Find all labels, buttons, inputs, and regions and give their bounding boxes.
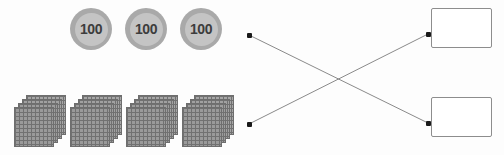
flat-front-face [14,107,54,147]
coin-value-label: 100 [80,22,102,36]
coin-100-3[interactable]: 100 [180,8,222,50]
hundred-flat-2[interactable] [70,95,126,147]
flat-front-face [126,107,166,147]
coin-100-1[interactable]: 100 [70,8,112,50]
connector-line-top-to-bottom [249,35,428,123]
flat-front-face [70,107,110,147]
coin-face: 100 [130,13,163,46]
hundred-flat-1[interactable] [14,95,70,147]
left-dot-bottom[interactable] [247,122,252,127]
hundred-flat-4[interactable] [182,95,238,147]
connector-line-bottom-to-top [249,34,428,124]
left-dot-top[interactable] [247,33,252,38]
coin-100-2[interactable]: 100 [125,8,167,50]
answer-box-top[interactable] [431,8,492,48]
matching-worksheet: 100 100 100 [0,0,504,155]
hundred-flat-3[interactable] [126,95,182,147]
answer-box-bottom[interactable] [431,97,492,137]
coin-face: 100 [75,13,108,46]
coin-value-label: 100 [190,22,212,36]
coin-value-label: 100 [135,22,157,36]
coin-face: 100 [185,13,218,46]
flat-front-face [182,107,222,147]
